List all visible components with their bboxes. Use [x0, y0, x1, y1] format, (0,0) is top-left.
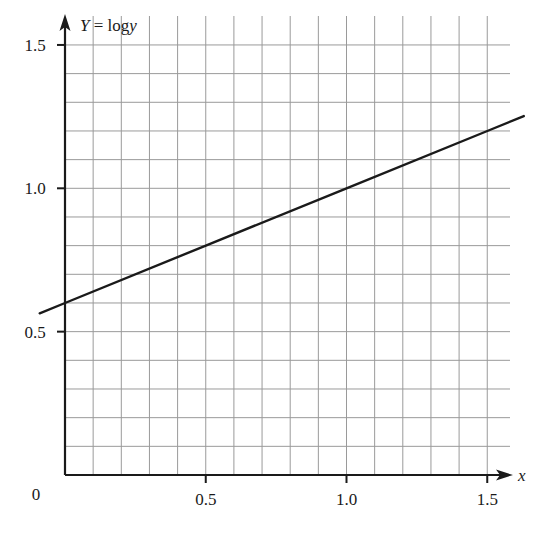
- axes: [60, 14, 514, 481]
- x-axis-title: x: [517, 466, 526, 485]
- y-axis-title-var: y: [127, 16, 137, 35]
- y-tick-label: 1.0: [24, 179, 45, 198]
- y-axis-title-eq: = log: [89, 16, 129, 35]
- tick-labels: 0.51.01.50.51.01.5: [24, 36, 498, 509]
- y-tick-label: 1.5: [24, 36, 45, 55]
- grid-lines: [65, 16, 510, 475]
- y-tick-label: 0.5: [24, 323, 45, 342]
- x-tick-label: 0.5: [195, 490, 216, 509]
- x-tick-label: 1.0: [336, 490, 357, 509]
- origin-label: 0: [32, 485, 41, 504]
- chart: 0.51.01.50.51.01.5 0 x Y = logy: [0, 0, 545, 534]
- series-line: [40, 116, 524, 313]
- x-tick-label: 1.5: [477, 490, 498, 509]
- series-group: [40, 116, 524, 313]
- y-axis-title: Y = logy: [80, 16, 137, 35]
